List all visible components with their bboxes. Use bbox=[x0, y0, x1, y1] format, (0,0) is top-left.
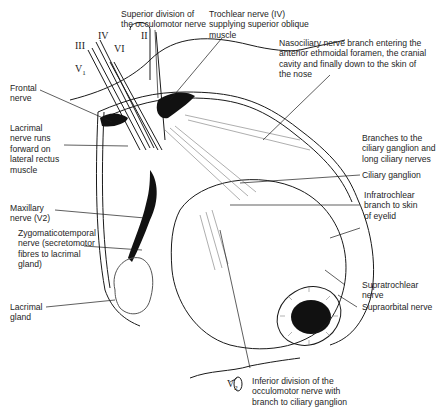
label-supratrochlear: Supratrochlear nerve bbox=[362, 280, 418, 301]
nerve-marker-oculomotor: III bbox=[75, 40, 85, 51]
label-lacrimal-gland: Lacrimal gland bbox=[10, 302, 42, 323]
nerve-marker-abducens: VI bbox=[114, 43, 125, 54]
label-nasociliary: Nasociliary nerve branch entering the an… bbox=[279, 38, 426, 80]
muscles bbox=[165, 115, 310, 270]
label-frontal-nerve: Frontal nerve bbox=[10, 83, 37, 104]
lacrimal-gland bbox=[114, 258, 153, 314]
label-ciliary-ganglion: Ciliary ganglion bbox=[362, 170, 421, 180]
nerve-trunks bbox=[88, 23, 165, 151]
label-maxillary-nerve: Maxillary nerve (V2) bbox=[10, 203, 50, 224]
label-inferior-division: Inferior division of the occulomotor ner… bbox=[252, 376, 347, 407]
label-branches-ciliary: Branches to the ciliary ganglion and lon… bbox=[362, 133, 436, 164]
nerve-marker-trochlear: IV bbox=[98, 30, 109, 41]
label-zygomaticotemporal: Zygomaticotemporal nerve (secretomotor f… bbox=[18, 228, 96, 270]
orbit-outline bbox=[70, 39, 374, 345]
label-trochlear-nerve: Trochlear nerve (IV) supplying superior … bbox=[209, 9, 309, 40]
label-superior-division: Superior division of the occulomotor ner… bbox=[121, 9, 206, 30]
nerve-marker-ophthalmic: V1 bbox=[75, 63, 86, 77]
nerve-marker-optic: II bbox=[141, 30, 148, 41]
eyeball bbox=[171, 180, 351, 357]
nerve-marker-maxillary: V2 bbox=[227, 378, 238, 392]
label-infratrochlear: Infratrochlear branch to skin of eyelid bbox=[364, 190, 418, 221]
label-lacrimal-nerve: Lacrimal nerve runs forward on lateral r… bbox=[10, 123, 59, 175]
label-supraorbital: Supraorbital nerve bbox=[362, 302, 432, 312]
